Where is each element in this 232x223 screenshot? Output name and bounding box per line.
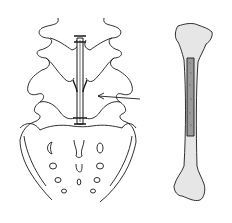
spinal-graft xyxy=(73,36,87,124)
bone-panel xyxy=(174,23,212,200)
sacral-foramina xyxy=(48,140,104,193)
left-vertebra-inner-1 xyxy=(50,38,78,50)
right-vertebra-inner-2 xyxy=(86,58,114,82)
right-vertebra-inner-3 xyxy=(86,102,120,119)
left-vertebra-inner-3 xyxy=(40,102,74,119)
right-vertebra-inner-1 xyxy=(85,38,112,50)
spine-panel xyxy=(20,18,140,202)
figure-canvas xyxy=(0,0,232,223)
left-vertebra-inner-2 xyxy=(46,58,74,82)
left-vertebrae-outline xyxy=(20,18,58,200)
left-iliac-edge xyxy=(24,136,46,186)
